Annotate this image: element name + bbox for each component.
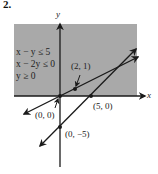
label-0-m5: (0, −5) [65, 129, 90, 139]
pointer-0-0 [55, 99, 58, 108]
graph [0, 0, 158, 174]
inequality-1: x − y ≤ 5 [16, 47, 50, 57]
x-axis-label: x [147, 90, 151, 100]
y-axis-label: y [56, 9, 60, 19]
inequality-3: y ≥ 0 [16, 71, 35, 81]
point-2-1 [73, 87, 77, 91]
point-0-m5 [58, 125, 62, 129]
label-2-1: (2, 1) [71, 61, 91, 71]
label-0-0: (0, 0) [35, 110, 55, 120]
point-0-0 [58, 94, 62, 98]
point-5-0 [89, 94, 93, 98]
label-5-0: (5, 0) [93, 101, 113, 111]
inequality-2: x − 2y ≤ 0 [16, 59, 55, 69]
